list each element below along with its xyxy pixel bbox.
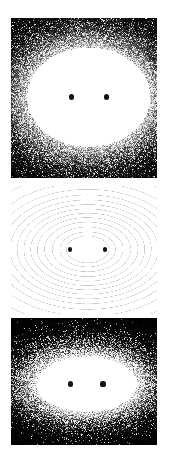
panel-middle-contour	[11, 186, 157, 314]
top-density-canvas	[11, 18, 157, 178]
middle-contour-canvas	[11, 186, 157, 314]
figure-root	[0, 0, 169, 449]
panel-top-density	[11, 18, 157, 178]
panel-bottom-density	[11, 318, 157, 445]
bottom-density-canvas	[11, 318, 157, 445]
